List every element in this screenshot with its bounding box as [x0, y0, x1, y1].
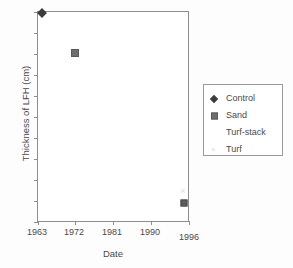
y-axis-tick: [34, 138, 38, 139]
plot-area: ×: [37, 11, 189, 222]
y-axis-tick: [34, 75, 38, 76]
legend-label: Control: [226, 93, 255, 103]
legend-label: Turf: [226, 144, 242, 154]
x-axis-tick: [151, 221, 152, 225]
y-axis-tick: [34, 54, 38, 55]
x-tick-label-1972: 1972: [64, 227, 84, 237]
y-axis-tick: [34, 117, 38, 118]
legend-label: Sand: [226, 110, 247, 120]
x-axis-tick: [75, 221, 76, 225]
y-axis-tick: [34, 201, 38, 202]
x-axis-tick: [189, 221, 190, 225]
cross-icon: ×: [211, 146, 216, 154]
scatter-chart-figure: Thickness of LFH (cm) × 1963 1972 1981 1…: [0, 0, 293, 268]
legend-label: Turf-stack: [226, 127, 266, 137]
legend-item-sand[interactable]: Sand: [204, 107, 282, 124]
legend-item-turf-stack[interactable]: Turf-stack: [204, 124, 282, 141]
square-icon: [211, 112, 218, 119]
diamond-icon: [210, 94, 218, 102]
data-point-turf-1996: ×: [180, 188, 187, 195]
x-tick-label-1981: 1981: [102, 227, 122, 237]
x-axis-tick: [38, 221, 39, 225]
y-axis-tick: [34, 159, 38, 160]
triangle-icon: [211, 129, 219, 136]
x-tick-label-1996: 1996: [179, 232, 199, 242]
data-point-sand-1972: [71, 49, 79, 57]
legend-item-control[interactable]: Control: [204, 90, 282, 107]
x-tick-label-1990: 1990: [140, 227, 160, 237]
legend-item-turf[interactable]: × Turf: [204, 141, 282, 158]
data-point-control-1963: [37, 8, 47, 18]
y-axis-tick: [34, 96, 38, 97]
x-tick-label-1963: 1963: [27, 227, 47, 237]
chart-legend: Control Sand Turf-stack × Turf: [203, 84, 283, 156]
y-axis-tick: [34, 180, 38, 181]
data-point-sand-1996: [181, 200, 188, 207]
x-axis-title: Date: [37, 248, 189, 259]
y-axis-tick: [34, 33, 38, 34]
x-axis-tick: [113, 221, 114, 225]
y-axis-title: Thickness of LFH (cm): [20, 39, 31, 189]
